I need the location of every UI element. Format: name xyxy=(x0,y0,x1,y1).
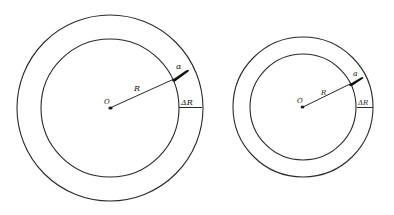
small-center-point xyxy=(301,106,305,109)
large-center-point xyxy=(108,106,112,109)
large-center-label: O xyxy=(104,98,110,106)
small-alpha-label: α xyxy=(353,70,358,78)
large-radius-label: R xyxy=(133,84,140,93)
diagram-canvas: O R α ΔR O R α ΔR xyxy=(0,0,394,215)
small-delta-r-label: ΔR xyxy=(357,99,369,107)
large-alpha-label: α xyxy=(176,62,182,71)
large-delta-r-label: ΔR xyxy=(180,98,193,107)
small-radius-label: R xyxy=(320,89,327,97)
small-figure: O R α ΔR xyxy=(233,37,373,177)
small-alpha-arrow-icon xyxy=(349,77,363,86)
small-radius-line xyxy=(303,84,350,107)
small-center-label: O xyxy=(297,97,303,105)
large-figure: O R α ΔR xyxy=(17,15,203,201)
large-radius-line xyxy=(110,79,174,108)
large-alpha-arrow-icon xyxy=(172,70,189,82)
